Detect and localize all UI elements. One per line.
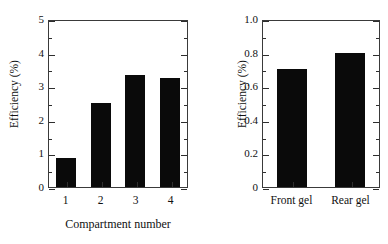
y-tick-minor: [49, 71, 52, 72]
y-tick-major: [49, 155, 55, 156]
bar-3: [125, 75, 145, 187]
y-tick-minor: [263, 172, 266, 173]
y-tick-minor-right: [376, 139, 379, 140]
panel-b-bar-group: [263, 21, 379, 187]
y-tick-major-right: [181, 88, 187, 89]
y-tick-major-right: [181, 155, 187, 156]
y-tick-major-right: [373, 122, 379, 123]
y-tick-label: 0: [14, 181, 44, 193]
y-tick-major: [263, 155, 269, 156]
y-tick-major-right: [373, 21, 379, 22]
bar-rear-gel: [335, 53, 365, 187]
panel-a: (A) Efficiency (%) Compartment number 01…: [0, 0, 198, 244]
x-tick: [102, 182, 103, 187]
y-tick-minor-right: [376, 38, 379, 39]
y-tick-label: 5: [14, 13, 44, 25]
y-tick-minor: [263, 105, 266, 106]
bar-slot: [263, 21, 321, 187]
panel-a-x-axis-title: Compartment number: [38, 217, 198, 232]
y-tick-minor: [49, 38, 52, 39]
x-tick: [67, 182, 68, 187]
y-tick-major: [263, 21, 269, 22]
y-tick-minor: [49, 105, 52, 106]
y-tick-major-right: [373, 155, 379, 156]
y-tick-major: [263, 88, 269, 89]
bar-slot: [84, 21, 119, 187]
y-tick-label: 4: [14, 47, 44, 59]
y-tick-minor: [263, 38, 266, 39]
panel-b-y-axis-title: Efficiency (%): [236, 58, 248, 130]
y-tick-label: 2: [14, 114, 44, 126]
bar-slot: [153, 21, 188, 187]
x-tick-label: 4: [137, 194, 205, 206]
y-tick-label: 0.8: [228, 47, 258, 59]
y-tick-minor: [263, 139, 266, 140]
y-tick-label: 3: [14, 80, 44, 92]
y-tick-label: 0.2: [228, 147, 258, 159]
y-tick-major: [263, 55, 269, 56]
y-tick-label: 1: [14, 147, 44, 159]
bar-2: [91, 103, 111, 187]
y-tick-minor-right: [184, 71, 187, 72]
y-tick-major: [49, 55, 55, 56]
y-tick-major-right: [373, 88, 379, 89]
figure-container: (A) Efficiency (%) Compartment number 01…: [0, 0, 388, 244]
y-tick-label: 0: [228, 181, 258, 193]
x-tick: [172, 182, 173, 187]
y-tick-major: [49, 88, 55, 89]
y-tick-major-right: [181, 21, 187, 22]
y-tick-minor-right: [184, 139, 187, 140]
x-tick: [137, 182, 138, 187]
y-tick-major-right: [181, 55, 187, 56]
bar-slot: [49, 21, 84, 187]
y-tick-major: [263, 189, 269, 190]
y-tick-major-right: [181, 189, 187, 190]
y-tick-major: [49, 122, 55, 123]
panel-b: (B) 00.20.40.60.81.0 Front gelRear gel: [198, 0, 388, 244]
y-tick-minor-right: [376, 105, 379, 106]
x-tick-label: Rear gel: [317, 194, 385, 206]
x-tick: [352, 182, 353, 187]
bar-4: [160, 78, 180, 187]
panel-b-plot-area: [262, 20, 380, 188]
y-tick-minor: [263, 71, 266, 72]
x-tick-label: Front gel: [258, 194, 326, 206]
y-tick-major: [49, 189, 55, 190]
y-tick-minor-right: [184, 38, 187, 39]
y-tick-label: 1.0: [228, 13, 258, 25]
panel-a-bar-group: [49, 21, 187, 187]
y-tick-minor-right: [184, 172, 187, 173]
y-tick-minor: [49, 172, 52, 173]
y-tick-major: [263, 122, 269, 123]
y-tick-minor-right: [184, 105, 187, 106]
bar-slot: [321, 21, 379, 187]
y-tick-minor: [49, 139, 52, 140]
y-tick-minor-right: [376, 172, 379, 173]
y-tick-minor-right: [376, 71, 379, 72]
y-tick-major: [49, 21, 55, 22]
bar-slot: [118, 21, 153, 187]
panel-a-plot-area: [48, 20, 188, 188]
y-tick-major-right: [181, 122, 187, 123]
y-tick-major-right: [373, 55, 379, 56]
y-tick-major-right: [373, 189, 379, 190]
bar-front-gel: [277, 69, 307, 187]
x-tick: [293, 182, 294, 187]
